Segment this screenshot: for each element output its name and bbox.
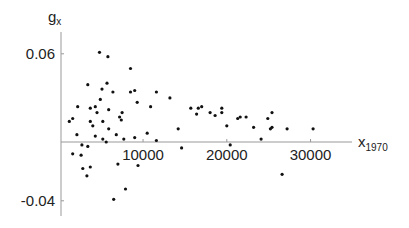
x-tick-label: 30000 bbox=[290, 146, 332, 163]
data-point bbox=[95, 111, 98, 114]
data-point bbox=[124, 187, 127, 190]
data-points bbox=[68, 51, 315, 201]
data-point bbox=[168, 96, 171, 99]
data-point bbox=[229, 143, 232, 146]
data-point bbox=[81, 167, 84, 170]
data-point bbox=[111, 90, 114, 93]
data-point bbox=[133, 89, 136, 92]
data-point bbox=[68, 120, 71, 123]
data-point bbox=[121, 111, 124, 114]
data-point bbox=[86, 83, 89, 86]
data-point bbox=[115, 133, 118, 136]
data-point bbox=[91, 124, 94, 127]
data-point bbox=[220, 111, 223, 114]
x-tick-label: 20000 bbox=[206, 146, 248, 163]
x-axis-label: x1970 bbox=[358, 133, 388, 153]
data-point bbox=[195, 113, 198, 116]
data-point bbox=[209, 111, 212, 114]
y-tick-label: 0.06 bbox=[26, 45, 55, 62]
data-point bbox=[200, 105, 203, 108]
data-point bbox=[94, 105, 97, 108]
data-point bbox=[89, 120, 92, 123]
data-point bbox=[101, 138, 104, 141]
data-point bbox=[133, 136, 136, 139]
data-point bbox=[105, 140, 108, 143]
data-point bbox=[149, 105, 152, 108]
x-ticks: 100002000030000 bbox=[122, 139, 331, 163]
data-point bbox=[116, 163, 119, 166]
data-point bbox=[260, 138, 263, 141]
data-point bbox=[107, 108, 110, 111]
data-point bbox=[214, 114, 217, 117]
data-point bbox=[286, 127, 289, 130]
data-point bbox=[71, 152, 74, 155]
data-point bbox=[239, 115, 242, 118]
data-point bbox=[89, 107, 92, 110]
data-point bbox=[76, 105, 79, 108]
data-point bbox=[122, 138, 125, 141]
data-point bbox=[86, 145, 89, 148]
x-tick-label: 10000 bbox=[122, 146, 164, 163]
data-point bbox=[71, 117, 74, 120]
scatter-plot: 0.06-0.04 100002000030000 gx x1970 bbox=[0, 0, 409, 228]
data-point bbox=[100, 88, 103, 91]
data-point bbox=[129, 67, 132, 70]
data-point bbox=[136, 164, 139, 167]
data-point bbox=[155, 139, 158, 142]
data-point bbox=[118, 115, 121, 118]
y-axis-label: gx bbox=[48, 8, 61, 27]
data-point bbox=[94, 135, 97, 138]
data-point bbox=[107, 127, 110, 130]
data-point bbox=[189, 107, 192, 110]
data-point bbox=[266, 117, 269, 120]
data-point bbox=[146, 132, 149, 135]
data-point bbox=[220, 107, 223, 110]
y-ticks: 0.06-0.04 bbox=[21, 45, 64, 209]
data-point bbox=[99, 98, 102, 101]
data-point bbox=[85, 174, 88, 177]
data-point bbox=[112, 198, 115, 201]
data-point bbox=[136, 101, 139, 104]
data-point bbox=[120, 118, 123, 121]
data-point bbox=[75, 133, 78, 136]
data-point bbox=[312, 127, 315, 130]
data-point bbox=[270, 111, 273, 114]
data-point bbox=[80, 143, 83, 146]
data-point bbox=[89, 165, 92, 168]
data-point bbox=[98, 51, 101, 54]
data-point bbox=[269, 127, 272, 130]
data-point bbox=[155, 90, 158, 93]
data-point bbox=[80, 154, 83, 157]
data-point bbox=[101, 120, 104, 123]
data-point bbox=[197, 107, 200, 110]
data-point bbox=[177, 127, 180, 130]
data-point bbox=[105, 82, 108, 85]
data-point bbox=[106, 55, 109, 58]
data-point bbox=[281, 173, 284, 176]
data-point bbox=[180, 146, 183, 149]
data-point bbox=[252, 126, 255, 129]
data-point bbox=[245, 115, 248, 118]
y-tick-label: -0.04 bbox=[21, 192, 55, 209]
data-point bbox=[129, 90, 132, 93]
data-point bbox=[225, 124, 228, 127]
